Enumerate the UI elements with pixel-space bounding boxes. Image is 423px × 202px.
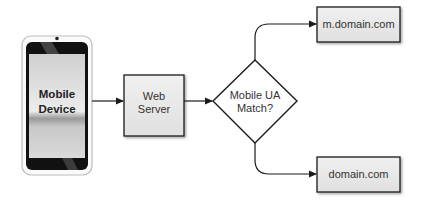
decision-label-line2: Match? [237, 102, 273, 115]
decision-label-line1: Mobile UA [230, 89, 281, 102]
web-server-label-line1: Web [143, 90, 165, 103]
web-server-label: Web Server [124, 88, 184, 118]
mobile-site-label: m.domain.com [317, 7, 400, 42]
decision-label: Mobile UA Match? [215, 88, 295, 116]
camera-icon [55, 37, 59, 41]
mobile-device-label: Mobile Device [29, 86, 85, 118]
edge-decision-to-desktop-site [255, 143, 316, 174]
web-server-label-line2: Server [138, 103, 170, 116]
desktop-site-label: domain.com [317, 157, 400, 192]
edge-decision-to-mobile-site [255, 24, 316, 60]
mobile-device-label-line1: Mobile [39, 87, 75, 102]
mobile-device-label-line2: Device [38, 102, 75, 117]
